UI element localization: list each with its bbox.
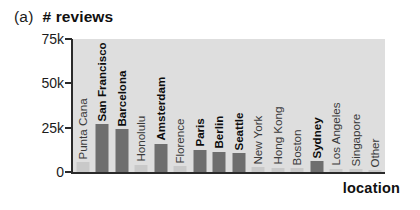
- x-axis-category-label: Berlin: [213, 116, 225, 149]
- x-axis-category-label: Paris: [194, 118, 206, 146]
- y-axis-tick-mark: [65, 127, 72, 129]
- bar-group: Singapore: [346, 39, 366, 172]
- y-axis-tick-mark: [65, 82, 72, 84]
- x-axis-category-label: Florence: [174, 118, 186, 163]
- bar: [232, 153, 245, 172]
- x-axis-category-label: San Francisco: [96, 42, 108, 121]
- chart-title-text: # reviews: [43, 8, 114, 26]
- bar: [154, 144, 167, 172]
- bar: [96, 124, 109, 172]
- bar-group: Hong Kong: [268, 39, 288, 172]
- y-axis-tick-label: 75k: [4, 32, 64, 46]
- y-axis-tick-mark: [65, 171, 72, 173]
- bar-group: Sydney: [307, 39, 327, 172]
- x-axis-category-label: Singapore: [350, 113, 362, 166]
- y-axis-tick: 50k: [0, 83, 64, 84]
- bar-group: Boston: [288, 39, 308, 172]
- y-axis-tick-label: 25k: [4, 121, 64, 135]
- y-axis-tick-label: 50k: [4, 76, 64, 90]
- bar-group: Barcelona: [112, 39, 132, 172]
- y-axis-tick-mark: [65, 38, 72, 40]
- x-axis-label: location: [343, 180, 400, 196]
- x-axis-category-label: Sydney: [311, 117, 323, 158]
- bar: [271, 168, 284, 172]
- panel-tag: (a): [14, 8, 34, 26]
- bar-group: Punta Cana: [73, 39, 93, 172]
- bar-group: Paris: [190, 39, 210, 172]
- bar-group: New York: [249, 39, 269, 172]
- bar-group: Florence: [171, 39, 191, 172]
- bar-group: Seattle: [229, 39, 249, 172]
- y-axis-tick: 0: [0, 172, 64, 173]
- bar-group: San Francisco: [93, 39, 113, 172]
- x-axis-category-label: Barcelona: [116, 70, 128, 126]
- bar: [349, 169, 362, 172]
- bar: [193, 150, 206, 172]
- bar-group: Los Angeles: [327, 39, 347, 172]
- x-axis-category-label: New York: [252, 115, 264, 164]
- x-axis-category-label: Other: [369, 138, 381, 167]
- bar-group: Amsterdam: [151, 39, 171, 172]
- bar: [115, 129, 128, 172]
- chart-title: (a) # reviews: [14, 8, 113, 28]
- bar: [135, 165, 148, 172]
- bar: [330, 169, 343, 172]
- x-axis-category-label: Hong Kong: [272, 107, 284, 165]
- x-axis-category-label: Boston: [291, 129, 303, 165]
- x-axis-category-label: Honolulu: [135, 116, 147, 162]
- x-axis-category-label: Punta Cana: [77, 98, 89, 159]
- y-axis-tick: 25k: [0, 128, 64, 129]
- x-axis-category-label: Los Angeles: [330, 103, 342, 166]
- x-axis-category-label: Seattle: [233, 112, 245, 150]
- bar: [310, 161, 323, 172]
- bar: [369, 170, 382, 172]
- bar: [174, 166, 187, 172]
- bar: [76, 162, 89, 172]
- bar-series: Punta CanaSan FranciscoBarcelonaHonolulu…: [73, 39, 385, 172]
- y-axis-tick-label: 0: [4, 165, 64, 179]
- bar: [252, 167, 265, 172]
- figure-panel-a: (a) # reviews 025k50k75k Punta CanaSan F…: [0, 0, 420, 210]
- bar-group: Honolulu: [132, 39, 152, 172]
- x-axis-category-label: Amsterdam: [155, 77, 167, 141]
- bar: [213, 152, 226, 172]
- bar: [291, 168, 304, 172]
- bar-group: Other: [366, 39, 386, 172]
- x-axis-spine: [71, 172, 385, 174]
- y-axis-tick: 75k: [0, 39, 64, 40]
- bar-group: Berlin: [210, 39, 230, 172]
